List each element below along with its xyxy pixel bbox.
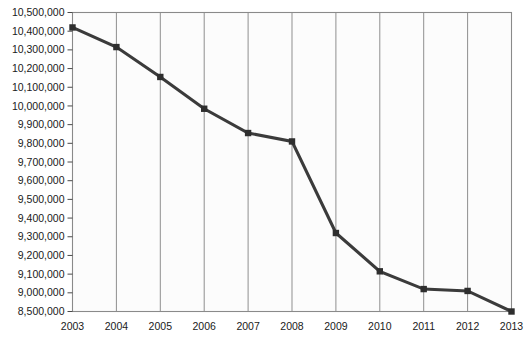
y-axis-label-9: 9,600,000 (18, 174, 65, 186)
y-axis-label-10: 9,500,000 (18, 193, 65, 205)
y-axis-label-11: 9,400,000 (18, 212, 65, 224)
x-axis-label-2004: 2004 (105, 320, 129, 332)
y-axis-tick-labels: 10,500,00010,400,00010,300,00010,200,000… (12, 6, 65, 317)
y-axis-label-14: 9,100,000 (18, 268, 65, 280)
y-axis-label-5: 10,000,000 (12, 100, 65, 112)
data-point-2009 (333, 230, 339, 236)
y-axis-label-6: 9,900,000 (18, 118, 65, 130)
x-axis-label-2005: 2005 (149, 320, 173, 332)
x-axis-label-2010: 2010 (368, 320, 392, 332)
data-point-2007 (245, 130, 251, 136)
y-axis-label-8: 9,700,000 (18, 156, 65, 168)
x-axis-label-2013: 2013 (500, 320, 524, 332)
x-axis-tick-labels: 2003200420052006200720082009201020112012… (61, 320, 524, 332)
y-axis-label-3: 10,200,000 (12, 62, 65, 74)
x-axis-label-2003: 2003 (61, 320, 85, 332)
x-axis-label-2006: 2006 (193, 320, 217, 332)
y-axis-label-0: 10,500,000 (12, 6, 65, 18)
y-axis-label-12: 9,300,000 (18, 230, 65, 242)
line-chart: 10,500,00010,400,00010,300,00010,200,000… (0, 0, 527, 347)
y-axis-label-1: 10,400,000 (12, 25, 65, 37)
y-axis-label-16: 8,500,000 (18, 305, 65, 317)
x-axis-label-2009: 2009 (324, 320, 348, 332)
y-axis-label-7: 9,800,000 (18, 137, 65, 149)
y-axis-label-15: 9,000,000 (18, 286, 65, 298)
chart-container: 10,500,00010,400,00010,300,00010,200,000… (0, 0, 527, 347)
x-axis-label-2011: 2011 (412, 320, 435, 332)
x-axis-label-2012: 2012 (456, 320, 480, 332)
data-point-2013 (508, 308, 514, 314)
x-axis-label-2008: 2008 (280, 320, 304, 332)
data-point-2011 (421, 286, 427, 292)
data-point-2005 (157, 74, 163, 80)
y-axis-label-13: 9,200,000 (18, 249, 65, 261)
y-axis-label-4: 10,100,000 (12, 81, 65, 93)
data-point-2006 (201, 106, 207, 112)
y-axis-ticks (68, 13, 73, 312)
data-point-2010 (377, 268, 383, 274)
data-point-2003 (69, 24, 75, 30)
y-axis-label-2: 10,300,000 (12, 43, 65, 55)
data-point-2004 (113, 44, 119, 50)
data-point-2012 (464, 288, 470, 294)
x-axis-label-2007: 2007 (236, 320, 260, 332)
data-point-2008 (289, 138, 295, 144)
